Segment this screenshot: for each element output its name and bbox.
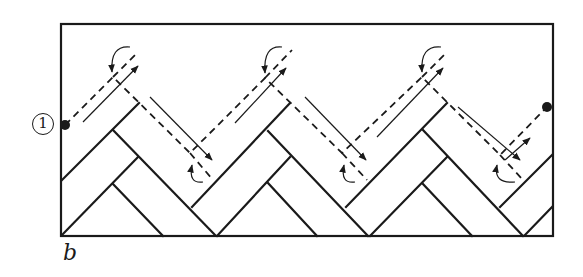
turn-arrow-icon <box>343 165 355 182</box>
dashed-tail <box>422 52 447 77</box>
end-point-dot <box>542 102 552 112</box>
board-edge <box>423 184 472 236</box>
start-marker-label: 1 <box>32 113 54 135</box>
board-edge <box>423 130 523 236</box>
direction-arrow-icon <box>305 97 366 160</box>
turn-arrow-icon <box>112 47 130 72</box>
dashed-travel-path <box>65 77 547 155</box>
turn-arrow-icon <box>191 165 203 182</box>
board-edge <box>500 155 552 207</box>
direction-arrows <box>83 66 530 160</box>
board-edge <box>268 183 317 236</box>
dashed-tail <box>265 50 292 78</box>
board-edge <box>113 184 163 236</box>
dashed-tail <box>113 52 138 77</box>
herringbone-boards <box>62 103 552 236</box>
dashed-overshoot-tails <box>113 50 523 180</box>
direction-arrow-icon <box>150 97 212 160</box>
figure-letter-label: b <box>63 240 77 265</box>
board-edge <box>525 207 552 235</box>
dashed-tail <box>500 155 523 180</box>
direction-arrow-icon <box>458 107 520 160</box>
start-point-dot <box>60 120 70 130</box>
herringbone-path-diagram <box>0 0 583 277</box>
direction-arrow-icon <box>377 68 443 137</box>
direction-arrow-icon <box>505 138 530 160</box>
